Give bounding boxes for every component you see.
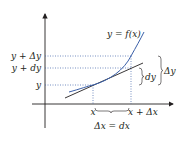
delta-x-brace: [95, 108, 129, 113]
label-dy: dy: [145, 72, 157, 82]
differential-diagram: y = f(x) y + Δy y + dy y x x + Δx Δx = d…: [0, 0, 186, 141]
label-x-plus-delta-x: x + Δx: [128, 107, 158, 117]
dy-brace: [139, 68, 144, 85]
curve-label: y = f(x): [106, 29, 141, 39]
label-y: y: [35, 80, 42, 90]
label-y-plus-dy: y + dy: [11, 63, 42, 73]
label-y-plus-delta-y: y + Δy: [10, 51, 42, 61]
curve-f: [69, 32, 144, 92]
delta-y-brace: [158, 56, 163, 85]
label-x: x: [90, 107, 95, 117]
label-delta-y: Δy: [163, 66, 176, 76]
label-delta-x-eq-dx: Δx = dx: [93, 121, 130, 131]
